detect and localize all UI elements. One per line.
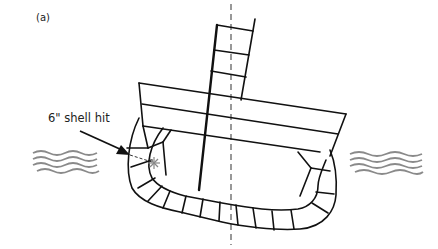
outer-hull [128, 118, 336, 229]
mast [199, 19, 255, 190]
shell-hit-arrow [80, 131, 152, 162]
right-compartments [298, 152, 334, 213]
waves-right-icon [350, 152, 423, 174]
ship-cross-section-diagram [0, 0, 438, 249]
waves-left-icon [33, 151, 99, 173]
